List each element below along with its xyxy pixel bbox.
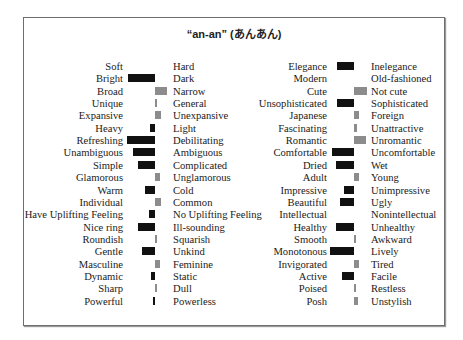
- data-bar: [337, 99, 354, 107]
- row-left-label: Monotonous: [0, 245, 327, 258]
- row-left-label: Modern: [0, 72, 327, 85]
- right-adjective-label: Wet: [371, 159, 388, 172]
- left-adjective-label: Posh: [306, 295, 327, 308]
- left-adjective-label: Intellectual: [279, 208, 327, 221]
- right-adjective-label: Awkward: [371, 233, 412, 246]
- right-adjective-label: Uncomfortable: [371, 146, 435, 159]
- right-adjective-label: Lively: [371, 245, 399, 258]
- data-bar: [344, 186, 354, 194]
- data-bar: [342, 272, 354, 280]
- chart-title: “an-an” (あんあん): [24, 25, 444, 41]
- row-left-label: Comfortable: [0, 146, 327, 159]
- data-bar: [336, 223, 354, 231]
- right-adjective-label: Unromantic: [371, 134, 422, 147]
- left-adjective-label: Unsophisticated: [259, 97, 327, 110]
- row-left-label: Fascinating: [0, 122, 327, 135]
- left-adjective-label: Monotonous: [273, 245, 327, 258]
- right-adjective-label: Nonintellectual: [371, 208, 436, 221]
- right-adjective-label: Ugly: [371, 196, 392, 209]
- left-adjective-label: Romantic: [286, 134, 327, 147]
- row-left-label: Posh: [0, 295, 327, 308]
- left-adjective-label: Elegance: [288, 60, 327, 73]
- data-bar: [354, 297, 358, 305]
- left-adjective-label: Japanese: [289, 109, 327, 122]
- row-left-label: Smooth: [0, 233, 327, 246]
- right-adjective-label: Not cute: [371, 85, 407, 98]
- data-bar: [354, 111, 359, 119]
- data-bar: [354, 235, 356, 243]
- data-bar: [354, 124, 357, 132]
- left-adjective-label: Poised: [299, 282, 327, 295]
- row-left-label: Unsophisticated: [0, 97, 327, 110]
- row-left-label: Elegance: [0, 60, 327, 73]
- left-adjective-label: Healthy: [293, 221, 327, 234]
- left-adjective-label: Adult: [303, 171, 327, 184]
- row-left-label: Impressive: [0, 184, 327, 197]
- row-left-label: Romantic: [0, 134, 327, 147]
- row-left-label: Cute: [0, 85, 327, 98]
- row-left-label: Invigorated: [0, 258, 327, 271]
- row-left-label: Beautiful: [0, 196, 327, 209]
- left-adjective-label: Impressive: [281, 184, 327, 197]
- row-left-label: Dried: [0, 159, 327, 172]
- right-adjective-label: Inelegance: [371, 60, 417, 73]
- left-adjective-label: Active: [299, 270, 327, 283]
- right-adjective-label: Old-fashioned: [371, 72, 432, 85]
- right-adjective-label: Sophisticated: [371, 97, 428, 110]
- row-left-label: Adult: [0, 171, 327, 184]
- data-bar: [354, 284, 356, 292]
- left-adjective-label: Beautiful: [288, 196, 327, 209]
- right-adjective-label: Young: [371, 171, 399, 184]
- right-adjective-label: Restless: [371, 282, 406, 295]
- left-adjective-label: Cute: [307, 85, 327, 98]
- data-bar: [354, 173, 359, 181]
- data-bar: [336, 161, 354, 169]
- right-adjective-label: Unhealthy: [371, 221, 415, 234]
- left-adjective-label: Smooth: [294, 233, 327, 246]
- row-left-label: Poised: [0, 282, 327, 295]
- right-adjective-label: Unstylish: [371, 295, 412, 308]
- data-bar: [354, 260, 359, 268]
- left-adjective-label: Dried: [303, 159, 327, 172]
- right-adjective-label: Unattractive: [371, 122, 423, 135]
- data-bar: [337, 62, 354, 70]
- data-bar: [354, 87, 367, 95]
- right-adjective-label: Tired: [371, 258, 394, 271]
- left-adjective-label: Comfortable: [273, 146, 327, 159]
- right-adjective-label: Unimpressive: [371, 184, 430, 197]
- row-left-label: Healthy: [0, 221, 327, 234]
- data-bar: [354, 136, 366, 144]
- right-adjective-label: Foreign: [371, 109, 404, 122]
- data-bar: [330, 247, 354, 255]
- right-adjective-label: Facile: [371, 270, 397, 283]
- left-adjective-label: Invigorated: [278, 258, 327, 271]
- row-left-label: Active: [0, 270, 327, 283]
- left-adjective-label: Fascinating: [278, 122, 327, 135]
- data-bar: [340, 198, 354, 206]
- row-left-label: Japanese: [0, 109, 327, 122]
- data-bar: [332, 148, 354, 156]
- left-adjective-label: Modern: [293, 72, 327, 85]
- row-left-label: Intellectual: [0, 208, 327, 221]
